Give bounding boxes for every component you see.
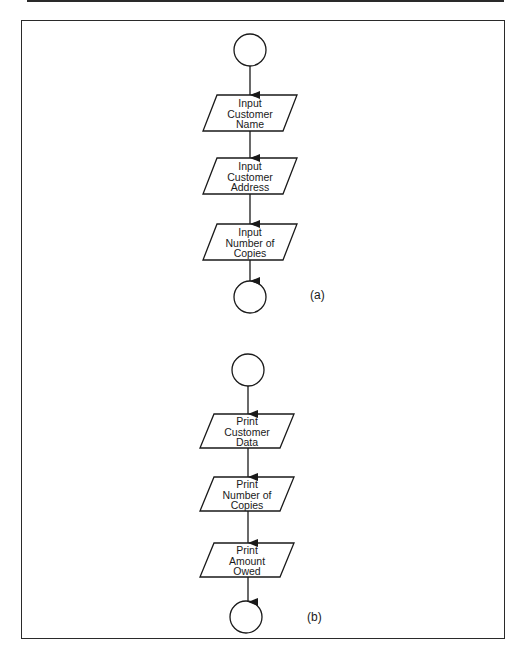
end-connector-b	[230, 601, 262, 633]
step-b-1-label: Print Customer Data	[207, 416, 287, 448]
panel-a-label: (a)	[310, 288, 325, 302]
step-line: Input	[210, 227, 290, 238]
step-line: Input	[210, 161, 290, 172]
step-a-3-label: Input Number of Copies	[210, 227, 290, 259]
step-line: Name	[210, 119, 290, 130]
end-connector-a	[234, 281, 266, 313]
step-line: Owed	[207, 566, 287, 577]
panel-b-label: (b)	[307, 610, 322, 624]
start-connector-b	[232, 354, 264, 386]
step-b-2-label: Print Number of Copies	[207, 479, 287, 511]
step-line: Copies	[207, 500, 287, 511]
step-line: Address	[210, 182, 290, 193]
step-line: Copies	[210, 248, 290, 259]
step-b-3-label: Print Amount Owed	[207, 545, 287, 577]
step-line: Print	[207, 416, 287, 427]
start-connector-a	[234, 34, 266, 66]
step-a-1-label: Input Customer Name	[210, 98, 290, 130]
step-a-2-label: Input Customer Address	[210, 161, 290, 193]
step-line: Print	[207, 545, 287, 556]
step-line: Input	[210, 98, 290, 109]
step-line: Print	[207, 479, 287, 490]
step-line: Data	[207, 437, 287, 448]
